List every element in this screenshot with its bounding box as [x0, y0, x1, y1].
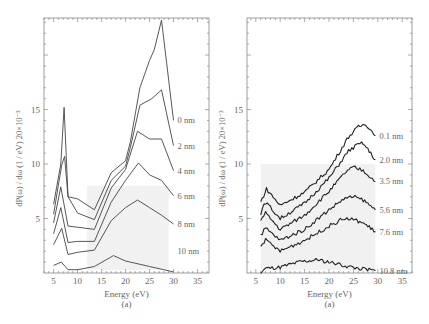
x-tick-label: 35 [398, 276, 408, 286]
x-tick-label: 30 [169, 276, 179, 286]
x-tick-label: 5 [51, 276, 56, 286]
x-tick-label: 25 [349, 276, 359, 286]
series-label: 2.0 nm [379, 155, 403, 165]
y-tick-label: 10 [234, 159, 244, 169]
panel-caption: (a) [325, 299, 335, 309]
x-tick-label: 15 [97, 276, 107, 286]
series-label: 4 nm [178, 166, 196, 176]
y-tick-label: 5 [36, 214, 41, 224]
series-label: 0 nm [178, 115, 196, 125]
panel-caption: (a) [122, 299, 132, 309]
x-tick-label: 25 [145, 276, 155, 286]
right-panel: 510152025303551015Energy (eV)(a)dP(ω) / … [217, 18, 412, 309]
x-tick-label: 20 [121, 276, 131, 286]
series-label: 5.6 nm [379, 205, 403, 215]
y-tick-label: 5 [239, 214, 244, 224]
x-tick-label: 30 [373, 276, 383, 286]
series-label: 10.8 nm [379, 266, 407, 276]
series-label: 8 nm [178, 219, 196, 229]
series-label: 3.5 nm [379, 176, 403, 186]
y-tick-label: 10 [31, 159, 41, 169]
x-tick-label: 10 [276, 276, 286, 286]
series-label: 2 nm [178, 141, 196, 151]
y-axis-label: dP(ω) / dω (1 / eV) 20×10⁻³ [14, 110, 24, 207]
x-tick-label: 5 [254, 276, 259, 286]
y-tick-label: 15 [234, 105, 244, 115]
x-axis-label: Energy (eV) [104, 289, 149, 299]
x-tick-label: 15 [300, 276, 310, 286]
y-axis-label: dP(ω) / dω (1 / eV) 20×10⁻³ [217, 110, 227, 207]
series-line-0-nm [54, 20, 174, 210]
series-label: 0.1 nm [379, 131, 403, 141]
series-label: 7.6 nm [379, 227, 403, 237]
y-tick-label: 15 [31, 105, 41, 115]
chart-figure: 510152025303551015Energy (eV)(a)dP(ω) / … [0, 0, 429, 324]
x-axis-label: Energy (eV) [307, 289, 352, 299]
series-label: 6 nm [178, 191, 196, 201]
x-tick-label: 20 [325, 276, 335, 286]
x-tick-label: 10 [73, 276, 83, 286]
left-panel: 510152025303551015Energy (eV)(a)dP(ω) / … [14, 18, 209, 309]
series-label: 10 nm [178, 246, 200, 256]
x-tick-label: 35 [193, 276, 203, 286]
